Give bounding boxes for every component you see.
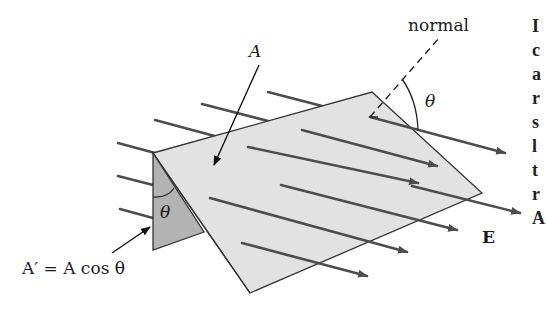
caption-fragment: c	[532, 38, 546, 62]
caption-fragment: r	[532, 86, 546, 110]
field-label: E	[482, 227, 495, 247]
caption-fragment: r	[532, 182, 546, 206]
caption-fragment: I	[532, 14, 546, 38]
normal-label: normal	[408, 15, 469, 35]
projected-area-pointer-arrow	[112, 227, 150, 253]
theta-side-label: θ	[160, 202, 170, 222]
caption-fragment: t	[532, 158, 546, 182]
caption-fragment: l	[532, 134, 546, 158]
flux-through-tilted-surface-diagram: normal A θ θ A′ = A cos θ E	[0, 0, 546, 312]
caption-fragment: s	[532, 110, 546, 134]
projected-area-label: A′ = A cos θ	[21, 258, 125, 278]
caption-fragment: a	[532, 62, 546, 86]
area-label: A	[247, 41, 261, 61]
cropped-caption-text: I c a r s l t r A	[532, 0, 546, 312]
caption-fragment: A	[532, 206, 546, 230]
theta-top-label: θ	[425, 91, 435, 111]
